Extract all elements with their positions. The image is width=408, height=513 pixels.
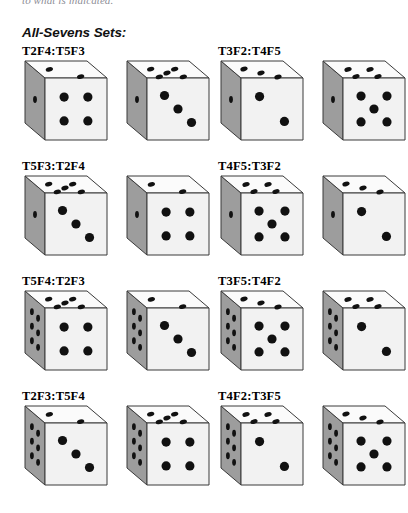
die bbox=[22, 58, 110, 143]
all-sevens-dice-figure: to what is indicated. All-Sevens Sets: T… bbox=[0, 0, 408, 513]
dice-set-t2f3-t5f4: T2F3:T5F4 bbox=[22, 389, 218, 504]
die-face-front bbox=[147, 193, 209, 255]
die-face-front bbox=[343, 193, 405, 255]
dice-pair bbox=[22, 403, 212, 488]
dice-pair bbox=[22, 58, 212, 143]
die-face-front bbox=[241, 423, 303, 485]
dice-sets-row: T2F4:T5F3T3F2:T4F5 bbox=[0, 44, 408, 159]
die bbox=[22, 173, 110, 258]
dice-set-label: T5F3:T2F4 bbox=[22, 159, 85, 174]
die bbox=[124, 58, 212, 143]
dice-set-label: T5F4:T2F3 bbox=[22, 274, 85, 289]
dice-set-label: T3F5:T4F2 bbox=[218, 274, 281, 289]
dice-sets-grid: T2F4:T5F3T3F2:T4F5T5F3:T2F4T4F5:T3F2T5F4… bbox=[0, 44, 408, 504]
page-title: All-Sevens Sets: bbox=[22, 25, 126, 40]
dice-set-t5f4-t2f3: T5F4:T2F3 bbox=[22, 274, 218, 389]
die bbox=[218, 403, 306, 488]
die bbox=[218, 173, 306, 258]
dice-set-t2f4-t5f3: T2F4:T5F3 bbox=[22, 44, 218, 159]
dice-set-label: T2F4:T5F3 bbox=[22, 44, 85, 59]
die-face-front bbox=[45, 308, 107, 370]
dice-pair bbox=[218, 288, 408, 373]
dice-set-label: T2F3:T5F4 bbox=[22, 389, 85, 404]
die bbox=[124, 403, 212, 488]
die bbox=[22, 403, 110, 488]
dice-set-label: T4F5:T3F2 bbox=[218, 159, 281, 174]
dice-set-t5f3-t2f4: T5F3:T2F4 bbox=[22, 159, 218, 274]
die bbox=[320, 173, 408, 258]
die bbox=[218, 58, 306, 143]
dice-set-t4f2-t3f5: T4F2:T3F5 bbox=[218, 389, 408, 504]
dice-sets-row: T5F4:T2F3T3F5:T4F2 bbox=[0, 274, 408, 389]
die bbox=[218, 288, 306, 373]
die-face-front bbox=[45, 78, 107, 140]
dice-pair bbox=[218, 403, 408, 488]
die-face-front bbox=[343, 308, 405, 370]
dice-pair bbox=[218, 58, 408, 143]
die bbox=[320, 403, 408, 488]
dice-set-label: T3F2:T4F5 bbox=[218, 44, 281, 59]
dice-set-t4f5-t3f2: T4F5:T3F2 bbox=[218, 159, 408, 274]
dice-set-t3f5-t4f2: T3F5:T4F2 bbox=[218, 274, 408, 389]
dice-pair bbox=[22, 173, 212, 258]
dice-pair bbox=[218, 173, 408, 258]
dice-sets-row: T2F3:T5F4T4F2:T3F5 bbox=[0, 389, 408, 504]
die bbox=[22, 288, 110, 373]
die bbox=[124, 288, 212, 373]
cut-off-caption-line: to what is indicated. bbox=[22, 0, 113, 6]
dice-sets-row: T5F3:T2F4T4F5:T3F2 bbox=[0, 159, 408, 274]
dice-pair bbox=[22, 288, 212, 373]
dice-set-t3f2-t4f5: T3F2:T4F5 bbox=[218, 44, 408, 159]
dice-set-label: T4F2:T3F5 bbox=[218, 389, 281, 404]
die bbox=[320, 288, 408, 373]
die-face-front bbox=[147, 423, 209, 485]
die bbox=[320, 58, 408, 143]
die bbox=[124, 173, 212, 258]
die-face-front bbox=[241, 78, 303, 140]
